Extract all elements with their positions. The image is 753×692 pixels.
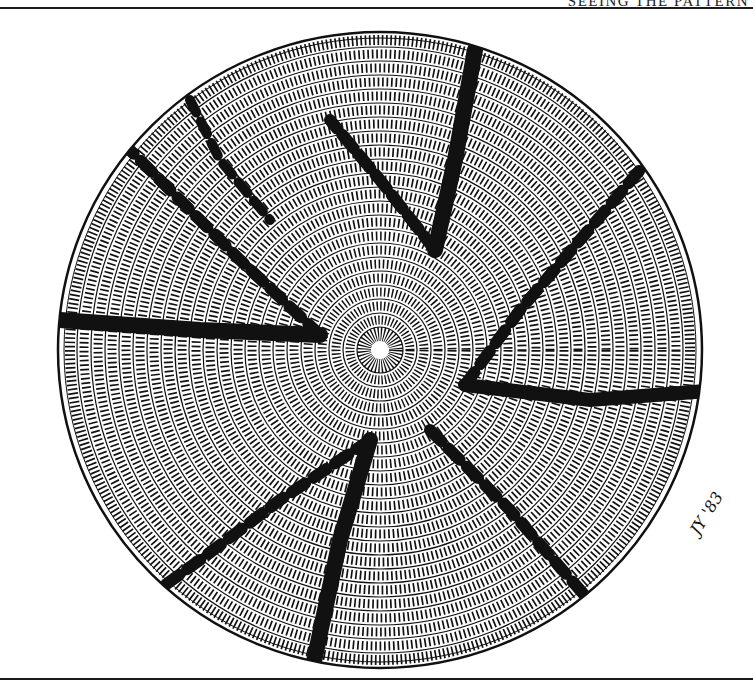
bottom-rule — [0, 678, 753, 680]
basket-illustration — [40, 20, 720, 680]
top-rule — [0, 7, 753, 9]
